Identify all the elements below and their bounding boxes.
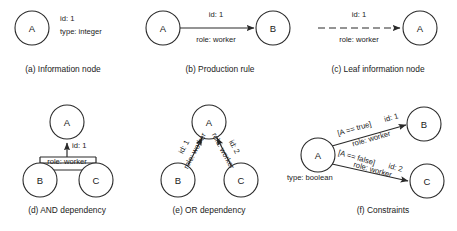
node-label: A	[29, 23, 36, 34]
panel-d: ABCid: 1role: worker(d) AND dependency	[23, 105, 113, 215]
edge-annotation: id: 1	[209, 10, 223, 19]
node-label: A	[417, 23, 424, 34]
panel-caption-f: (f) Constraints	[357, 205, 410, 215]
node-label: C	[93, 175, 100, 186]
node-label: B	[270, 23, 276, 34]
node-label: C	[424, 176, 431, 187]
panel-e: ABCid: 1role: workerid: 2role: worker(e)…	[161, 105, 258, 215]
panel-f: ABCtype: boolean[A == true]id: 1role: wo…	[287, 107, 444, 215]
node-label: A	[206, 117, 213, 128]
node-label: C	[238, 175, 245, 186]
node-label: A	[64, 117, 71, 128]
edge-annotation: id: 1	[72, 141, 86, 150]
panel-caption-e: (e) OR dependency	[172, 205, 246, 215]
panel-caption-d: (d) AND dependency	[28, 205, 107, 215]
edge-annotation: id: 1	[60, 14, 74, 23]
edge-annotation: id: 1	[352, 10, 366, 19]
edge-annotation: role: worker	[339, 35, 379, 44]
edge-annotation: type: boolean	[287, 173, 333, 182]
panel-caption-b: (b) Production rule	[186, 64, 255, 74]
edge-annotation: role: worker	[47, 157, 87, 166]
edge-annotation: role: worker	[196, 35, 236, 44]
node-label: B	[421, 119, 427, 130]
node-label: A	[160, 23, 167, 34]
panels-group: Aid: 1type: integer(a) Information nodeA…	[15, 10, 444, 215]
panel-c: Aid: 1role: worker(c) Leaf information n…	[318, 10, 437, 74]
panel-caption-c: (c) Leaf information node	[331, 64, 424, 74]
diagram-canvas: Aid: 1type: integer(a) Information nodeA…	[0, 0, 457, 231]
panel-b: ABid: 1role: worker(b) Production rule	[146, 10, 290, 74]
node-label: B	[175, 175, 181, 186]
node-label: A	[315, 150, 322, 161]
panel-caption-a: (a) Information node	[25, 64, 101, 74]
node-label: B	[37, 175, 43, 186]
edge-annotation: type: integer	[60, 27, 102, 36]
panel-a: Aid: 1type: integer(a) Information node	[15, 11, 102, 74]
edge-annotation: id: 1	[383, 111, 399, 124]
